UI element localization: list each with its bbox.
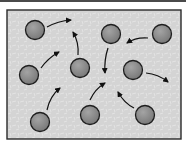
particle <box>102 25 121 44</box>
particle <box>31 113 50 132</box>
particle <box>81 106 100 125</box>
particle-motion-diagram <box>0 0 186 143</box>
particle <box>124 61 143 80</box>
particle <box>26 21 45 40</box>
particle <box>20 66 39 85</box>
particle <box>71 59 90 78</box>
particle <box>136 106 155 125</box>
particle <box>153 25 172 44</box>
